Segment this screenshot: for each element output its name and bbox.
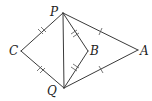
geometry-figure: P Q C B A (0, 0, 152, 101)
label-q: Q (47, 84, 57, 98)
tick-marks-cq (37, 66, 45, 73)
segment-pq (63, 13, 64, 88)
tick-marks-bq (71, 64, 79, 71)
label-p: P (49, 5, 59, 19)
label-c: C (9, 44, 18, 58)
tick-marks-pc (38, 27, 46, 34)
segment-bq (64, 51, 88, 88)
label-a: A (139, 44, 149, 58)
segment-cq (21, 51, 64, 88)
label-b: B (89, 44, 99, 58)
